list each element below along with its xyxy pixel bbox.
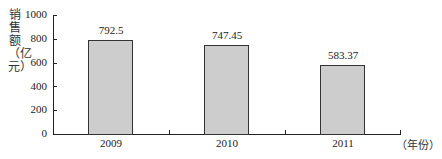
y-tick (53, 63, 57, 64)
bar-value-label: 583.37 (303, 49, 383, 61)
x-tick (285, 130, 286, 134)
bar-value-label: 792.5 (71, 24, 151, 36)
bar-value-label: 747.45 (187, 29, 267, 41)
x-category-label: 2009 (71, 137, 151, 149)
y-axis (53, 15, 54, 135)
y-tick-label: 600 (31, 56, 48, 68)
x-tick (400, 130, 401, 134)
y-tick (53, 86, 57, 87)
x-category-label: 2011 (303, 137, 383, 149)
bar-2011 (320, 65, 365, 135)
y-tick-label: 0 (42, 127, 48, 139)
bar-2010 (204, 45, 249, 135)
y-tick-label: 400 (31, 80, 48, 92)
y-tick-label: 800 (31, 32, 48, 44)
y-tick (53, 39, 57, 40)
x-category-label: 2010 (187, 137, 267, 149)
x-tick (169, 130, 170, 134)
x-axis-label: （年份） (396, 136, 440, 152)
bar-chart: 销售额（亿元） 1000 800 600 400 200 0 792.5 200… (0, 0, 442, 159)
y-tick (53, 110, 57, 111)
y-tick-label: 200 (31, 103, 48, 115)
y-axis-label: 销售额（亿元） (8, 9, 22, 74)
bar-2009 (88, 40, 133, 135)
y-tick-label: 1000 (25, 8, 47, 20)
y-tick (53, 15, 57, 16)
